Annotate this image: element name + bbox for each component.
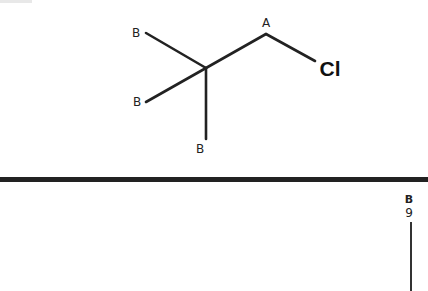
cropped-header-text [0, 0, 32, 3]
atom-label-b3: B [196, 142, 204, 156]
atom-label-b2: B [133, 95, 141, 109]
atom-label-b1: B [132, 26, 140, 40]
bond-b2-center [146, 68, 206, 102]
structure-diagram: B B B A Cl B 9 [0, 0, 428, 291]
atom-label-cl: Cl [320, 57, 341, 80]
bond-a-cl [266, 34, 315, 61]
lower-label-9: 9 [405, 206, 413, 220]
lower-label-b: B [405, 193, 413, 206]
bond-center-a [206, 34, 266, 68]
bonds [146, 33, 315, 139]
divider-line [0, 177, 428, 182]
bond-b1-center [146, 33, 206, 68]
atom-label-a: A [262, 16, 271, 30]
